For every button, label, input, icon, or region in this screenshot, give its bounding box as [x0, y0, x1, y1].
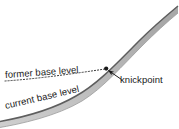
knickpoint-label: knickpoint	[120, 75, 163, 85]
profile-illustration	[0, 0, 179, 129]
knickpoint-diagram: former base level current base level kni…	[0, 0, 179, 129]
knickpoint-marker-dot	[104, 67, 108, 71]
